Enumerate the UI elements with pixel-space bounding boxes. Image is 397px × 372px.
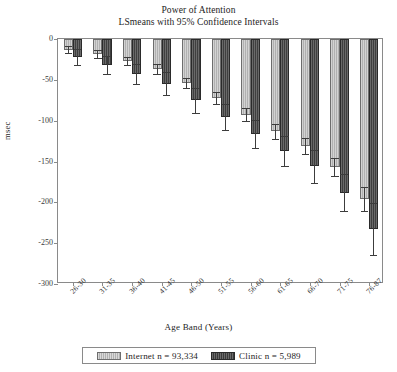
error-bar-line bbox=[166, 72, 167, 95]
error-bar-cap-upper bbox=[192, 88, 199, 89]
error-bar-line bbox=[97, 50, 98, 58]
y-axis-tick-mark bbox=[54, 162, 58, 163]
error-bar-cap-upper bbox=[331, 158, 338, 159]
error-bar-cap-lower bbox=[272, 139, 279, 140]
error-bar-cap-upper bbox=[340, 174, 347, 175]
error-bar-cap-upper bbox=[153, 64, 160, 65]
error-bar-cap-lower bbox=[163, 95, 170, 96]
error-bar-line bbox=[216, 92, 217, 103]
error-bar-cap-lower bbox=[331, 176, 338, 177]
error-bar-line bbox=[314, 150, 315, 183]
error-bar-cap-lower bbox=[281, 166, 288, 167]
y-axis-tick-label: -300 bbox=[19, 280, 58, 288]
error-bar-line bbox=[255, 120, 256, 148]
error-bar-cap-upper bbox=[183, 78, 190, 79]
error-bar-line bbox=[107, 56, 108, 74]
bar-internet bbox=[360, 39, 369, 199]
error-bar-line bbox=[77, 49, 78, 65]
error-bar-cap-upper bbox=[124, 57, 131, 58]
plot-inner: 0-50-100-150-200-250-30026-3031-3536-404… bbox=[58, 39, 382, 282]
y-axis-tick-mark bbox=[54, 39, 58, 40]
error-bar-cap-lower bbox=[222, 130, 229, 131]
bar-clinic bbox=[310, 39, 319, 166]
error-bar-cap-upper bbox=[311, 150, 318, 151]
error-bar-cap-lower bbox=[192, 113, 199, 114]
bar-internet bbox=[182, 39, 191, 83]
error-bar-cap-upper bbox=[242, 108, 249, 109]
y-axis-tick-mark bbox=[54, 243, 58, 244]
legend-swatch-internet-icon bbox=[97, 352, 121, 360]
error-bar-cap-lower bbox=[94, 58, 101, 59]
error-bar-cap-upper bbox=[65, 46, 72, 47]
y-axis-label: msec bbox=[2, 121, 12, 140]
error-bar-cap-upper bbox=[103, 56, 110, 57]
error-bar-cap-lower bbox=[361, 211, 368, 212]
legend-label-clinic: Clinic n = 5,989 bbox=[239, 351, 301, 361]
x-axis-tick-label: 51-55 bbox=[217, 277, 236, 296]
error-bar-line bbox=[186, 78, 187, 88]
x-axis-tick-label: 46-50 bbox=[187, 277, 206, 296]
error-bar-line bbox=[195, 88, 196, 113]
error-bar-cap-lower bbox=[242, 121, 249, 122]
bar-clinic bbox=[340, 39, 349, 193]
x-axis-tick-label: 26-30 bbox=[69, 277, 88, 296]
error-bar-cap-lower bbox=[340, 211, 347, 212]
chart-subtitle: LSmeans with 95% Confidence Intervals bbox=[0, 16, 397, 28]
error-bar-cap-upper bbox=[252, 120, 259, 121]
y-axis-tick-mark bbox=[54, 202, 58, 203]
x-axis-label: Age Band (Years) bbox=[0, 322, 397, 332]
error-bar-cap-lower bbox=[213, 104, 220, 105]
y-axis-tick-label: -250 bbox=[19, 239, 58, 247]
legend-item-clinic: Clinic n = 5,989 bbox=[211, 351, 301, 361]
error-bar-cap-lower bbox=[311, 183, 318, 184]
error-bar-line bbox=[344, 174, 345, 212]
error-bar-line bbox=[373, 203, 374, 255]
error-bar-line bbox=[246, 108, 247, 121]
error-bar-cap-upper bbox=[94, 50, 101, 51]
error-bar-cap-lower bbox=[370, 255, 377, 256]
error-bar-cap-upper bbox=[163, 72, 170, 73]
legend-item-internet: Internet n = 93,334 bbox=[97, 351, 198, 361]
bar-internet bbox=[271, 39, 280, 131]
x-axis-tick-label: 66-70 bbox=[306, 277, 325, 296]
error-bar-cap-upper bbox=[74, 49, 81, 50]
x-axis-tick-label: 76-87 bbox=[365, 277, 384, 296]
x-axis-tick-label: 41-45 bbox=[158, 277, 177, 296]
y-axis-tick-label: -100 bbox=[19, 117, 58, 125]
y-axis-tick-mark bbox=[54, 284, 58, 285]
error-bar-cap-lower bbox=[65, 53, 72, 54]
error-bar-line bbox=[305, 138, 306, 154]
bar-internet bbox=[212, 39, 221, 98]
bar-clinic bbox=[369, 39, 378, 229]
error-bar-cap-lower bbox=[183, 88, 190, 89]
y-axis-tick-label: -150 bbox=[19, 158, 58, 166]
chart-legend: Internet n = 93,334 Clinic n = 5,989 bbox=[82, 347, 316, 364]
bar-clinic bbox=[280, 39, 289, 151]
chart-title-block: Power of Attention LSmeans with 95% Conf… bbox=[0, 4, 397, 28]
x-axis-tick-label: 31-35 bbox=[98, 277, 117, 296]
x-axis-tick-label: 61-65 bbox=[276, 277, 295, 296]
error-bar-cap-lower bbox=[302, 154, 309, 155]
error-bar-cap-upper bbox=[213, 92, 220, 93]
error-bar-line bbox=[364, 187, 365, 212]
error-bar-cap-upper bbox=[222, 104, 229, 105]
y-axis-tick-mark bbox=[54, 80, 58, 81]
x-axis-tick-label: 71-75 bbox=[336, 277, 355, 296]
error-bar-cap-upper bbox=[281, 136, 288, 137]
error-bar-cap-lower bbox=[133, 84, 140, 85]
error-bar-cap-upper bbox=[272, 124, 279, 125]
y-axis-tick-mark bbox=[54, 121, 58, 122]
bar-internet bbox=[330, 39, 339, 167]
y-axis-tick-label: -200 bbox=[19, 198, 58, 206]
error-bar-line bbox=[225, 104, 226, 130]
chart-container: Power of Attention LSmeans with 95% Conf… bbox=[0, 0, 397, 372]
error-bar-line bbox=[334, 158, 335, 176]
y-axis-tick-label: -50 bbox=[19, 76, 58, 84]
error-bar-cap-upper bbox=[370, 203, 377, 204]
error-bar-cap-lower bbox=[252, 148, 259, 149]
bar-internet bbox=[301, 39, 310, 146]
error-bar-cap-lower bbox=[153, 74, 160, 75]
error-bar-line bbox=[127, 57, 128, 65]
error-bar-line bbox=[136, 64, 137, 84]
error-bar-cap-lower bbox=[124, 65, 131, 66]
